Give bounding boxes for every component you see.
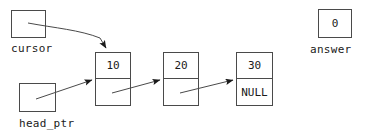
node-1-data: 10 (96, 53, 130, 79)
node-2-next (164, 79, 198, 105)
head-ptr-pointer-box (19, 83, 56, 112)
cursor-pointer-box (11, 10, 46, 38)
linked-list-diagram: cursor head_ptr 10 20 30 NULL 0 answer (0, 0, 382, 140)
head-ptr-label: head_ptr (19, 118, 74, 129)
node-3-next: NULL (237, 79, 272, 105)
cursor-label: cursor (11, 43, 53, 54)
answer-label: answer (310, 44, 352, 55)
list-node-2: 20 (163, 52, 199, 106)
list-node-1: 10 (95, 52, 131, 106)
node-2-data: 20 (164, 53, 198, 79)
node-1-next (96, 79, 130, 105)
node-3-data: 30 (237, 53, 272, 79)
answer-value-box: 0 (318, 9, 352, 38)
list-node-3: 30 NULL (236, 52, 273, 106)
